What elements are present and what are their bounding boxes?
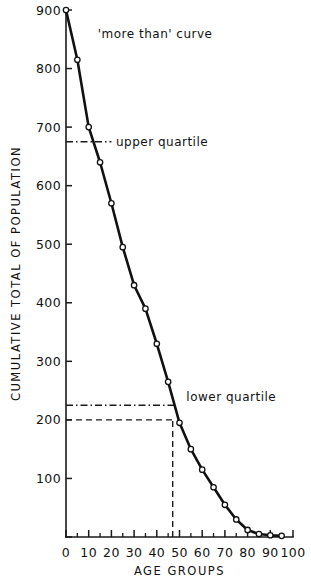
x-axis-title: AGE GROUPS	[134, 564, 225, 578]
lower-quartile-label: lower quartile	[186, 390, 276, 404]
y-tick-label: 200	[36, 412, 61, 427]
x-tick-label: 80	[239, 545, 256, 560]
x-tick-label: 30	[126, 545, 143, 560]
data-point-marker	[256, 531, 261, 536]
x-tick-label: 10	[80, 545, 97, 560]
x-tick-label: 90	[262, 545, 279, 560]
x-tick-label: 60	[194, 545, 211, 560]
x-tick-label: 70	[217, 545, 234, 560]
y-axis-title: CUMULATIVE TOTAL OF POPULATION	[9, 146, 23, 401]
x-tick-label: 20	[103, 545, 120, 560]
y-tick-label: 300	[36, 354, 61, 369]
data-point-marker	[109, 201, 114, 206]
y-tick-labels: 100200300400500600700800900	[36, 3, 61, 486]
data-point-marker	[120, 244, 125, 249]
data-point-marker	[268, 533, 273, 538]
y-tick-label: 500	[36, 237, 61, 252]
x-tick-label: 0	[62, 545, 70, 560]
chart-svg: 100200300400500600700800900 010203040506…	[0, 0, 311, 584]
y-tick-label: 700	[36, 120, 61, 135]
x-tick-label: 50	[171, 545, 188, 560]
data-point-marker	[165, 379, 170, 384]
x-tick-labels: 0102030405060708090100	[62, 545, 306, 560]
y-axis-group: 100200300400500600700800900	[36, 3, 72, 538]
y-tick-label: 400	[36, 295, 61, 310]
data-point-marker	[131, 283, 136, 288]
data-point-marker	[279, 533, 284, 538]
x-tick-label: 40	[148, 545, 165, 560]
data-point-markers	[63, 7, 284, 538]
data-point-marker	[63, 7, 68, 12]
annotations-group: 'more than' curveupper quartilelower qua…	[98, 27, 276, 404]
data-point-marker	[143, 306, 148, 311]
data-point-marker	[211, 485, 216, 490]
data-point-marker	[222, 502, 227, 507]
data-point-marker	[200, 467, 205, 472]
y-tick-marks	[66, 10, 72, 537]
data-point-marker	[245, 527, 250, 532]
x-tick-label: 100	[280, 545, 305, 560]
data-point-marker	[188, 446, 193, 451]
data-point-marker	[234, 517, 239, 522]
data-point-marker	[97, 160, 102, 165]
curve-label: 'more than' curve	[98, 27, 213, 41]
y-tick-label: 800	[36, 61, 61, 76]
y-tick-label: 600	[36, 178, 61, 193]
reference-lines-group	[66, 142, 177, 537]
y-tick-label: 100	[36, 471, 61, 486]
cumulative-frequency-chart: 100200300400500600700800900 010203040506…	[0, 0, 311, 584]
data-point-marker	[86, 124, 91, 129]
data-point-marker	[75, 57, 80, 62]
data-point-marker	[154, 341, 159, 346]
upper-quartile-label: upper quartile	[116, 135, 208, 149]
data-point-marker	[177, 420, 182, 425]
more-than-curve-line	[66, 10, 282, 536]
y-tick-label: 900	[36, 3, 61, 18]
